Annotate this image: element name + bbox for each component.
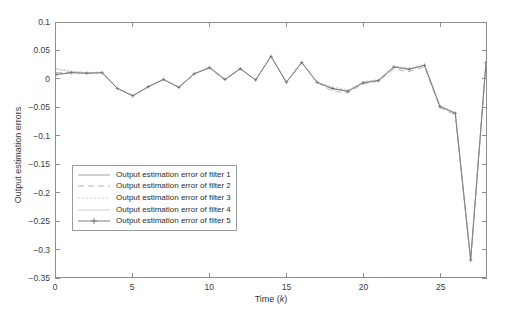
x-tick-mark <box>209 273 210 278</box>
figure-canvas: Time (k) Output estimation errors Output… <box>0 0 512 312</box>
x-tick-mark <box>286 22 287 27</box>
x-tick-mark <box>286 273 287 278</box>
legend-item-5[interactable]: Output estimation error of filter 5 <box>73 215 236 227</box>
x-tick-mark <box>363 273 364 278</box>
x-tick-mark <box>440 273 441 278</box>
y-tick-label: −0.15 <box>0 159 50 169</box>
x-tick-label: 25 <box>436 282 445 292</box>
y-tick-mark <box>55 221 60 222</box>
y-tick-label: −0.25 <box>0 216 50 226</box>
x-tick-mark <box>440 22 441 27</box>
y-tick-label: 0 <box>0 74 50 84</box>
y-tick-label: −0.3 <box>0 245 50 255</box>
y-tick-mark <box>55 107 60 108</box>
y-tick-mark <box>482 278 487 279</box>
legend-line-sample-icon <box>77 181 111 191</box>
legend-line-sample-icon <box>77 193 111 203</box>
y-tick-label: 0.1 <box>0 17 50 27</box>
x-tick-mark <box>209 22 210 27</box>
y-tick-label: −0.1 <box>0 131 50 141</box>
legend-line-sample-icon <box>77 205 111 215</box>
y-tick-mark <box>55 164 60 165</box>
legend-item-1[interactable]: Output estimation error of filter 1 <box>73 169 236 181</box>
plot-area <box>55 22 487 278</box>
y-tick-mark <box>482 164 487 165</box>
x-axis-title-text: Time (k) <box>255 294 288 304</box>
y-tick-mark <box>482 135 487 136</box>
legend-item-label: Output estimation error of filter 5 <box>116 216 231 226</box>
legend-item-3[interactable]: Output estimation error of filter 3 <box>73 192 236 204</box>
legend-box: Output estimation error of filter 1Outpu… <box>72 165 237 231</box>
x-tick-label: 5 <box>130 282 135 292</box>
y-tick-mark <box>55 50 60 51</box>
legend-item-label: Output estimation error of filter 2 <box>116 181 231 191</box>
legend-line-sample-icon <box>77 170 111 180</box>
y-tick-mark <box>55 278 60 279</box>
y-tick-label: −0.35 <box>0 273 50 283</box>
x-tick-mark <box>132 273 133 278</box>
x-tick-mark <box>55 22 56 27</box>
y-tick-mark <box>55 22 60 23</box>
x-tick-mark <box>363 22 364 27</box>
y-tick-mark <box>482 221 487 222</box>
legend-item-label: Output estimation error of filter 4 <box>116 205 231 215</box>
x-axis-title: Time (k) <box>55 294 487 304</box>
y-tick-label: 0.05 <box>0 45 50 55</box>
y-tick-mark <box>482 50 487 51</box>
y-tick-mark <box>482 107 487 108</box>
y-tick-mark <box>482 22 487 23</box>
x-tick-label: 0 <box>53 282 58 292</box>
legend-item-label: Output estimation error of filter 3 <box>116 193 231 203</box>
legend-item-label: Output estimation error of filter 1 <box>116 170 231 180</box>
legend-item-4[interactable]: Output estimation error of filter 4 <box>73 204 236 216</box>
y-tick-label: −0.2 <box>0 188 50 198</box>
y-tick-mark <box>482 192 487 193</box>
y-tick-mark <box>55 192 60 193</box>
x-tick-label: 10 <box>205 282 214 292</box>
x-tick-label: 20 <box>359 282 368 292</box>
x-tick-mark <box>132 22 133 27</box>
y-tick-mark <box>55 135 60 136</box>
legend-line-sample-icon <box>77 216 111 226</box>
y-tick-mark <box>482 78 487 79</box>
x-tick-mark <box>55 273 56 278</box>
y-tick-mark <box>55 249 60 250</box>
x-tick-label: 15 <box>282 282 291 292</box>
legend-item-2[interactable]: Output estimation error of filter 2 <box>73 181 236 193</box>
y-tick-label: −0.05 <box>0 102 50 112</box>
data-series-layer <box>56 23 486 277</box>
y-tick-mark <box>482 249 487 250</box>
y-tick-mark <box>55 78 60 79</box>
